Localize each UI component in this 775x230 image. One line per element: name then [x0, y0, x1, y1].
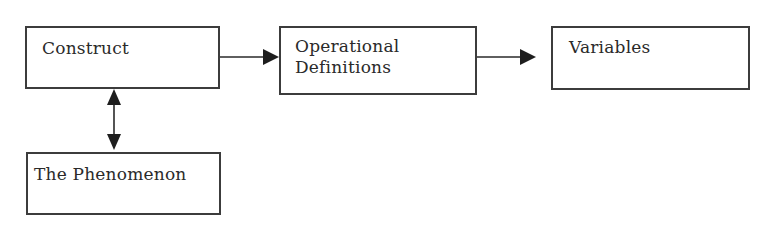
node-construct-label: Construct [27, 28, 218, 59]
arrow-construct-to-operational-definitions [220, 49, 279, 65]
node-variables-label: Variables [553, 28, 748, 58]
concept-flow-diagram: Construct Operational Definitions Variab… [0, 0, 775, 230]
double-arrow-construct-phenomenon [107, 89, 121, 150]
node-operational-definitions-label: Operational Definitions [281, 28, 475, 78]
node-the-phenomenon-label: The Phenomenon [28, 154, 219, 185]
node-construct: Construct [25, 26, 220, 89]
node-operational-definitions: Operational Definitions [279, 26, 477, 95]
node-variables: Variables [551, 26, 750, 90]
node-the-phenomenon: The Phenomenon [26, 152, 221, 215]
arrow-operational-definitions-to-variables [477, 49, 536, 65]
